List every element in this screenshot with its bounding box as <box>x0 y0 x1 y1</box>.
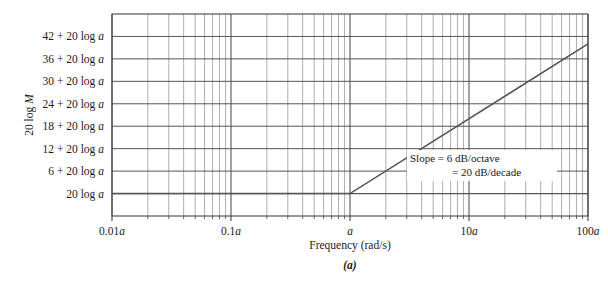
x-axis-tick-label: 0.01a <box>99 225 125 237</box>
y-axis-tick-label: 30 + 20 log a <box>43 75 105 88</box>
y-axis-tick-label: 42 + 20 log a <box>43 30 105 43</box>
figure-caption: (a) <box>343 259 357 272</box>
y-axis-tick-label: 18 + 20 log a <box>43 120 105 133</box>
x-axis-tick-label: 0.1a <box>221 225 241 237</box>
x-axis-tick-label: a <box>347 225 353 237</box>
y-axis-tick-label: 24 + 20 log a <box>43 98 105 111</box>
y-axis-tick-label: 36 + 20 log a <box>43 53 105 66</box>
slope-annotation: Slope = 6 dB/octave = 20 dB/decade <box>407 150 557 181</box>
svg-text:20 log M: 20 log M <box>23 93 36 136</box>
y-axis-tick-label: 6 + 20 log a <box>48 165 104 178</box>
slope-annotation-line2: = 20 dB/decade <box>452 166 521 178</box>
x-axis-title: Frequency (rad/s) <box>309 239 391 252</box>
x-axis-tick-label: 10a <box>460 225 478 237</box>
x-axis-tick-label: 100a <box>577 225 600 237</box>
slope-annotation-line1: Slope = 6 dB/octave <box>410 152 500 164</box>
y-axis-tick-label: 20 log a <box>66 188 104 201</box>
bode-magnitude-figure: 20 log a6 + 20 log a12 + 20 log a18 + 20… <box>0 0 608 284</box>
y-axis-tick-label: 12 + 20 log a <box>43 143 105 156</box>
y-axis-title: 20 log M <box>23 93 36 136</box>
